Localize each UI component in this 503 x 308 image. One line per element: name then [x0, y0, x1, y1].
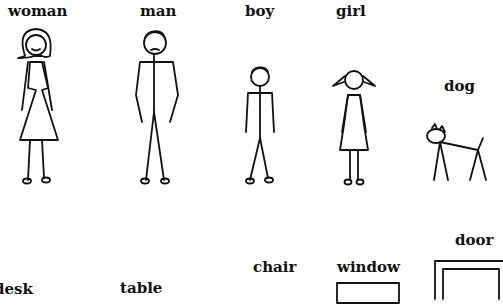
dog-figure-icon — [418, 120, 488, 190]
label-chair: chair — [253, 258, 296, 276]
label-table: table — [120, 279, 162, 297]
man-figure-icon — [130, 0, 200, 200]
girl-figure-icon — [328, 0, 388, 200]
label-door: door — [455, 231, 493, 249]
door-figure-icon — [433, 259, 503, 308]
woman-figure-icon — [0, 0, 80, 200]
boy-figure-icon — [238, 0, 288, 200]
label-window: window — [337, 258, 400, 276]
label-desk: desk — [0, 280, 33, 298]
window-figure-icon — [335, 280, 405, 300]
label-dog: dog — [444, 77, 475, 95]
